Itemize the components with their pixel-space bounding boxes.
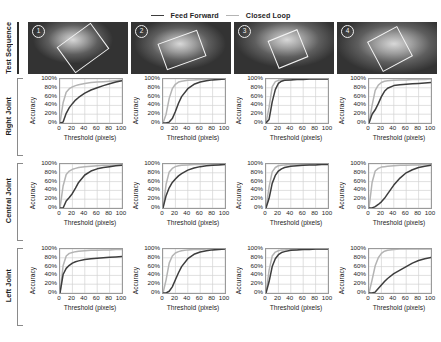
x-tick-label: 60 bbox=[196, 210, 203, 216]
x-tick-label: 60 bbox=[93, 125, 100, 131]
y-axis-ticks: 100%80%60%40%20%0% bbox=[242, 248, 263, 292]
y-axis-ticks: 100%80%60%40%20%0% bbox=[345, 163, 366, 207]
x-tick-label: 40 bbox=[389, 125, 396, 131]
x-tick-label: 60 bbox=[299, 125, 306, 131]
x-tick-label: 100 bbox=[425, 125, 435, 131]
frame-index-badge: 4 bbox=[341, 25, 354, 38]
x-tick-label: 40 bbox=[80, 210, 87, 216]
y-tick-label: 20% bbox=[45, 195, 57, 201]
y-tick-label: 60% bbox=[45, 92, 57, 98]
test-sequence-frame-4[interactable]: 4 bbox=[337, 22, 437, 74]
y-tick-label: 80% bbox=[354, 84, 366, 90]
y-tick-label: 20% bbox=[354, 280, 366, 286]
chart-panel-central-joint-1[interactable]: Accuracy100%80%60%40%20%0%020406080100Th… bbox=[28, 163, 128, 243]
x-axis-label: Threshold (pixels) bbox=[59, 219, 121, 226]
y-tick-label: 40% bbox=[148, 101, 160, 107]
y-tick-label: 40% bbox=[251, 271, 263, 277]
y-tick-label: 60% bbox=[354, 262, 366, 268]
row-bracket bbox=[17, 22, 24, 74]
y-axis-ticks: 100%80%60%40%20%0% bbox=[139, 78, 160, 122]
chart-panel-right-joint-1[interactable]: Accuracy100%80%60%40%20%0%020406080100Th… bbox=[28, 78, 128, 158]
row-label-text: Test Sequence bbox=[4, 22, 13, 74]
y-axis-ticks: 100%80%60%40%20%0% bbox=[36, 248, 57, 292]
x-tick-label: 20 bbox=[171, 125, 178, 131]
x-tick-label: 0 bbox=[263, 125, 266, 131]
row-bracket bbox=[17, 78, 23, 156]
x-tick-label: 20 bbox=[377, 295, 384, 301]
frame-index-badge: 3 bbox=[238, 25, 251, 38]
y-tick-label: 80% bbox=[148, 84, 160, 90]
y-tick-label: 60% bbox=[251, 262, 263, 268]
y-tick-label: 20% bbox=[148, 110, 160, 116]
y-tick-label: 60% bbox=[45, 262, 57, 268]
test-sequence-frame-1[interactable]: 1 bbox=[28, 22, 128, 74]
y-tick-label: 40% bbox=[354, 186, 366, 192]
y-axis-ticks: 100%80%60%40%20%0% bbox=[139, 163, 160, 207]
x-tick-label: 60 bbox=[402, 210, 409, 216]
legend-label-feed-forward: Feed Forward bbox=[171, 11, 219, 20]
y-tick-label: 80% bbox=[45, 254, 57, 260]
y-axis-label-text: Accuracy bbox=[132, 267, 139, 294]
y-tick-label: 0% bbox=[48, 204, 57, 210]
y-axis-label-text: Accuracy bbox=[29, 97, 36, 124]
y-tick-label: 0% bbox=[151, 119, 160, 125]
test-sequence-frame-2[interactable]: 2 bbox=[131, 22, 231, 74]
y-tick-label: 100% bbox=[247, 75, 263, 81]
chart-panel-left-joint-4[interactable]: Accuracy100%80%60%40%20%0%020406080100Th… bbox=[337, 248, 437, 328]
chart-panel-central-joint-3[interactable]: Accuracy100%80%60%40%20%0%020406080100Th… bbox=[234, 163, 334, 243]
chart-panel-central-joint-2[interactable]: Accuracy100%80%60%40%20%0%020406080100Th… bbox=[131, 163, 231, 243]
y-axis-label-text: Accuracy bbox=[132, 182, 139, 209]
row-label-text: Left Joint bbox=[4, 269, 13, 302]
chart-panel-left-joint-3[interactable]: Accuracy100%80%60%40%20%0%020406080100Th… bbox=[234, 248, 334, 328]
y-tick-label: 100% bbox=[350, 245, 366, 251]
y-tick-label: 20% bbox=[354, 110, 366, 116]
chart-panel-right-joint-4[interactable]: Accuracy100%80%60%40%20%0%020406080100Th… bbox=[337, 78, 437, 158]
x-tick-label: 20 bbox=[68, 210, 75, 216]
y-tick-label: 20% bbox=[45, 110, 57, 116]
x-tick-label: 0 bbox=[57, 210, 60, 216]
x-tick-label: 20 bbox=[68, 295, 75, 301]
y-tick-label: 60% bbox=[148, 177, 160, 183]
x-tick-label: 40 bbox=[183, 125, 190, 131]
x-tick-label: 60 bbox=[402, 125, 409, 131]
test-sequence-frame-3[interactable]: 3 bbox=[234, 22, 334, 74]
x-tick-label: 40 bbox=[183, 210, 190, 216]
y-tick-label: 60% bbox=[251, 92, 263, 98]
x-axis-label: Threshold (pixels) bbox=[265, 304, 327, 311]
x-tick-label: 100 bbox=[219, 210, 229, 216]
y-tick-label: 20% bbox=[45, 280, 57, 286]
y-tick-label: 0% bbox=[357, 289, 366, 295]
y-tick-label: 60% bbox=[354, 177, 366, 183]
y-axis-ticks: 100%80%60%40%20%0% bbox=[242, 78, 263, 122]
y-axis-ticks: 100%80%60%40%20%0% bbox=[345, 78, 366, 122]
y-tick-label: 0% bbox=[357, 204, 366, 210]
x-axis-label: Threshold (pixels) bbox=[162, 304, 224, 311]
y-tick-label: 100% bbox=[247, 160, 263, 166]
y-axis-label-text: Accuracy bbox=[132, 97, 139, 124]
x-axis-label: Threshold (pixels) bbox=[162, 134, 224, 141]
x-tick-label: 0 bbox=[366, 210, 369, 216]
chart-panel-central-joint-4[interactable]: Accuracy100%80%60%40%20%0%020406080100Th… bbox=[337, 163, 437, 243]
x-tick-label: 100 bbox=[219, 295, 229, 301]
y-tick-label: 100% bbox=[41, 245, 57, 251]
x-axis-label: Threshold (pixels) bbox=[368, 134, 430, 141]
x-tick-label: 20 bbox=[274, 125, 281, 131]
plot-area bbox=[162, 163, 226, 209]
x-tick-label: 100 bbox=[116, 295, 126, 301]
x-tick-label: 80 bbox=[414, 295, 421, 301]
plot-area bbox=[59, 248, 123, 294]
x-axis-label: Threshold (pixels) bbox=[368, 304, 430, 311]
x-tick-label: 20 bbox=[171, 210, 178, 216]
chart-panel-right-joint-2[interactable]: Accuracy100%80%60%40%20%0%020406080100Th… bbox=[131, 78, 231, 158]
y-tick-label: 0% bbox=[48, 119, 57, 125]
chart-panel-right-joint-3[interactable]: Accuracy100%80%60%40%20%0%020406080100Th… bbox=[234, 78, 334, 158]
legend-label-closed-loop: Closed Loop bbox=[246, 11, 291, 20]
x-tick-label: 80 bbox=[208, 210, 215, 216]
chart-panel-left-joint-2[interactable]: Accuracy100%80%60%40%20%0%020406080100Th… bbox=[131, 248, 231, 328]
y-tick-label: 20% bbox=[251, 280, 263, 286]
x-tick-label: 60 bbox=[93, 210, 100, 216]
y-tick-label: 0% bbox=[151, 204, 160, 210]
chart-panel-left-joint-1[interactable]: Accuracy100%80%60%40%20%0%020406080100Th… bbox=[28, 248, 128, 328]
x-tick-label: 80 bbox=[414, 125, 421, 131]
y-axis-label-text: Accuracy bbox=[29, 267, 36, 294]
